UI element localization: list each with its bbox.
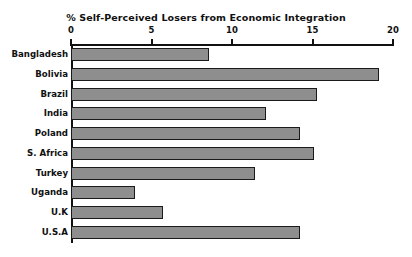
- x-tick-mark: [70, 39, 72, 46]
- x-tick-label: 5: [149, 25, 155, 35]
- bar: [71, 226, 300, 239]
- bar: [71, 167, 255, 180]
- x-tick-label: 0: [68, 25, 74, 35]
- category-label: India: [0, 107, 68, 120]
- plot-area: 05101520 BangladeshBoliviaBrazilIndiaPol…: [71, 44, 393, 244]
- bar: [71, 206, 163, 219]
- category-label: Bolivia: [0, 68, 68, 81]
- bar-row: S. Africa: [71, 145, 393, 165]
- bar-row: Brazil: [71, 86, 393, 106]
- bar: [71, 147, 314, 160]
- category-label: Turkey: [0, 167, 68, 180]
- x-tick-mark: [231, 39, 233, 46]
- bar-series: BangladeshBoliviaBrazilIndiaPolandS. Afr…: [71, 46, 393, 244]
- bar-row: Uganda: [71, 184, 393, 204]
- bar-row: U.K: [71, 204, 393, 224]
- bar-row: U.S.A: [71, 224, 393, 244]
- category-label: U.S.A: [0, 226, 68, 239]
- x-tick-label: 15: [307, 25, 319, 35]
- bar: [71, 186, 135, 199]
- category-label: Brazil: [0, 88, 68, 101]
- category-label: Bangladesh: [0, 48, 68, 61]
- bar: [71, 107, 266, 120]
- bar: [71, 88, 317, 101]
- bar: [71, 48, 209, 61]
- x-tick-mark: [312, 39, 314, 46]
- category-label: S. Africa: [0, 147, 68, 160]
- x-tick-label: 20: [387, 25, 399, 35]
- bar-row: Bangladesh: [71, 46, 393, 66]
- bar-row: India: [71, 105, 393, 125]
- category-label: U.K: [0, 206, 68, 219]
- bar-row: Bolivia: [71, 66, 393, 86]
- x-tick-label: 10: [226, 25, 238, 35]
- category-label: Poland: [0, 127, 68, 140]
- bar-row: Turkey: [71, 165, 393, 185]
- bar: [71, 127, 300, 140]
- x-tick-mark: [392, 39, 394, 46]
- bar: [71, 68, 379, 81]
- bar-row: Poland: [71, 125, 393, 145]
- category-label: Uganda: [0, 186, 68, 199]
- chart-title: % Self-Perceived Losers from Economic In…: [0, 12, 412, 23]
- bar-chart: % Self-Perceived Losers from Economic In…: [0, 0, 412, 257]
- x-tick-mark: [151, 39, 153, 46]
